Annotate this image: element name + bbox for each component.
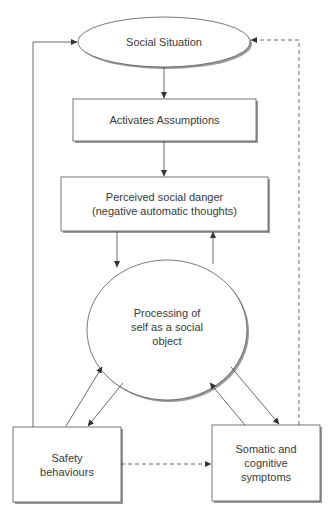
label-processing-self: Processing of self as a social object xyxy=(107,305,227,349)
label-text: object xyxy=(152,334,181,348)
label-text: Activates Assumptions xyxy=(109,114,219,127)
label-text: Perceived social danger xyxy=(106,190,223,204)
edge-safety-to-processing xyxy=(66,367,102,426)
label-text: symptoms xyxy=(241,470,291,484)
label-text: self as a social xyxy=(131,320,203,334)
label-text: Safety xyxy=(51,451,82,465)
label-social-situation: Social Situation xyxy=(78,32,250,52)
edge-safety-to-situation xyxy=(33,42,77,427)
label-text: behaviours xyxy=(40,465,94,479)
diagram-canvas xyxy=(0,0,335,517)
label-activates-assumptions: Activates Assumptions xyxy=(73,110,256,130)
label-text: (negative automatic thoughts) xyxy=(92,204,237,218)
label-text: Somatic and xyxy=(235,442,296,456)
label-somatic-symptoms: Somatic and cognitive symptoms xyxy=(212,441,320,485)
edge-processing-to-somatic xyxy=(231,367,279,424)
label-perceived-danger: Perceived social danger (negative automa… xyxy=(61,184,268,224)
label-safety-behaviours: Safety behaviours xyxy=(13,450,121,480)
label-text: cognitive xyxy=(244,456,287,470)
edge-somatic-to-processing xyxy=(210,383,245,425)
label-text: Processing of xyxy=(134,306,201,320)
label-text: Social Situation xyxy=(126,36,202,49)
edge-processing-to-safety xyxy=(88,383,123,426)
